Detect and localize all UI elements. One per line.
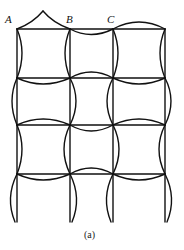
grid-deformation-diagram (0, 0, 184, 250)
row3-vertical-arcs (17, 125, 165, 174)
figure-caption: (a) (84, 230, 95, 240)
node-label-c: C (107, 14, 114, 25)
row2-vertical-arcs (12, 78, 171, 125)
grid-lines (17, 29, 165, 222)
row1-vertical-arcs (17, 29, 165, 78)
node-label-a: A (5, 14, 12, 25)
node-label-b: B (66, 14, 73, 25)
row4-vertical-arcs (10, 174, 171, 222)
top-arcs (17, 11, 165, 35)
